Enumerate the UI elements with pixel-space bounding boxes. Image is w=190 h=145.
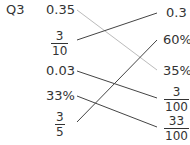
matching-lines bbox=[0, 0, 190, 145]
match-line-3/5-60pct bbox=[77, 40, 157, 122]
left-item-1: 0.35 bbox=[46, 3, 75, 17]
question-label: Q3 bbox=[6, 3, 25, 17]
numerator: 3 bbox=[172, 86, 182, 99]
right-item-2: 60% bbox=[163, 33, 190, 47]
right-item-4: 3 100 bbox=[164, 86, 189, 113]
left-item-2: 3 10 bbox=[51, 30, 68, 57]
denominator: 10 bbox=[51, 43, 68, 57]
right-item-5: 33 100 bbox=[164, 115, 189, 142]
right-item-3: 35% bbox=[163, 64, 190, 78]
left-item-4: 33% bbox=[46, 89, 75, 103]
match-line-0.03-3/100 bbox=[77, 71, 157, 98]
numerator: 33 bbox=[168, 115, 185, 128]
denominator: 100 bbox=[164, 128, 189, 142]
match-line-3/10-0.3 bbox=[77, 13, 157, 40]
left-item-5: 3 5 bbox=[55, 111, 65, 138]
denominator: 5 bbox=[55, 124, 65, 138]
left-item-3: 0.03 bbox=[46, 64, 75, 78]
right-item-1: 0.3 bbox=[166, 6, 187, 20]
numerator: 3 bbox=[55, 111, 65, 124]
match-line-0.35-35pct bbox=[77, 10, 157, 70]
numerator: 3 bbox=[55, 30, 65, 43]
denominator: 100 bbox=[164, 99, 189, 113]
match-line-33pct-33/100 bbox=[77, 96, 157, 127]
